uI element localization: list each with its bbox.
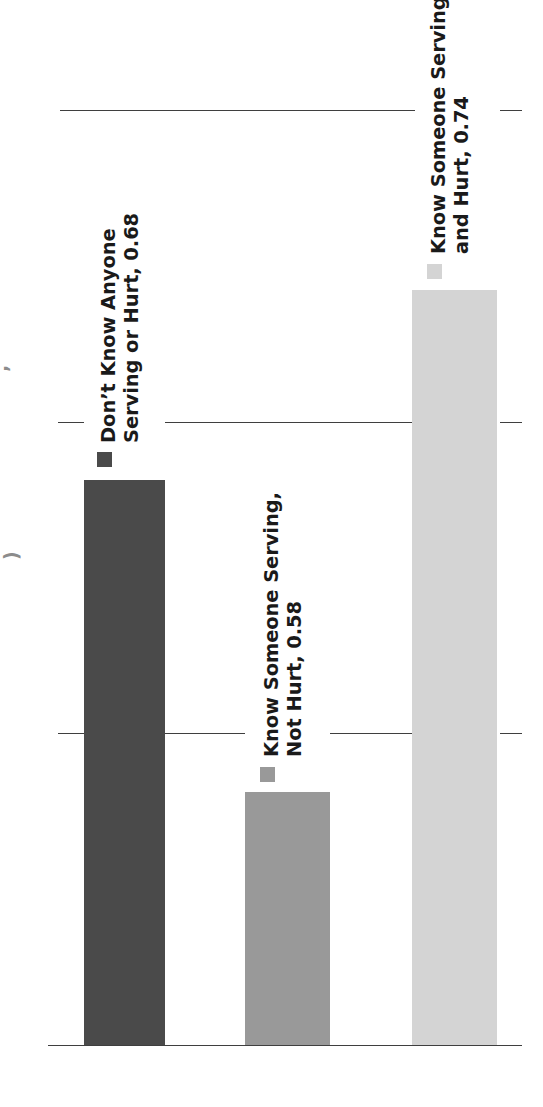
gridline-middle: [165, 422, 415, 423]
bar-label-dont-know-anyone: Don’t Know Anyone Serving or Hurt, 0.68: [98, 213, 143, 443]
bar-know-someone-and-hurt[interactable]: [412, 290, 497, 1045]
bar-label-know-someone-not-hurt: Know Someone Serving, Not Hurt, 0.58: [261, 492, 306, 757]
legend-swatch-know-someone-and-hurt: [427, 264, 442, 279]
bar-label-line2: and Hurt, 0.74: [451, 0, 474, 254]
gridline-middle-left-tick: [58, 422, 84, 423]
bar-label-line2: Not Hurt, 0.58: [284, 492, 307, 757]
gridline-upper-right-tick: [500, 110, 522, 111]
gridline-lower-right-tick: [500, 733, 522, 734]
cropped-text-fragment-lower: ): [0, 534, 22, 560]
bar-label-line1: Don’t Know Anyone: [97, 228, 120, 443]
bar-dont-know-anyone[interactable]: [84, 480, 165, 1045]
bar-chart: ’ ) Don’t Know Anyone Serving or Hurt, 0…: [0, 0, 543, 1107]
bar-know-someone-not-hurt[interactable]: [245, 792, 330, 1045]
gridline-upper: [60, 110, 415, 111]
legend-swatch-dont-know-anyone: [97, 452, 112, 467]
bar-label-line1: Know Someone Serving,: [260, 492, 283, 757]
bar-label-know-someone-and-hurt: Know Someone Serving, and Hurt, 0.74: [428, 0, 473, 254]
gridline-middle-right-tick: [500, 422, 522, 423]
gridline-lower: [330, 733, 415, 734]
category-axis-baseline: [48, 1045, 522, 1046]
cropped-text-fragment-upper: ’: [0, 346, 22, 372]
gridline-lower-segment: [165, 733, 245, 734]
bar-label-line1: Know Someone Serving,: [427, 0, 450, 254]
gridline-lower-left-tick: [58, 733, 84, 734]
bar-label-line2: Serving or Hurt, 0.68: [121, 213, 144, 443]
legend-swatch-know-someone-not-hurt: [260, 767, 275, 782]
